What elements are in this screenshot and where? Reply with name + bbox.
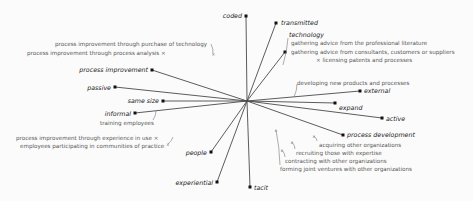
item-marker: x: [167, 142, 170, 147]
axis-endpoint-marker: [134, 112, 137, 115]
item-marker: x: [281, 148, 284, 153]
axis-endpoint-marker: [275, 22, 278, 25]
axis-endpoint-marker: [381, 117, 384, 120]
axis-endpoint-marker: [249, 186, 252, 189]
item-label: process improvement through process anal…: [27, 51, 166, 57]
item-label: training employees: [100, 121, 154, 127]
axis-label: same size: [128, 98, 159, 104]
axis-line: [247, 23, 276, 101]
axis-label: process development: [347, 132, 415, 138]
axis-line: [247, 91, 360, 101]
axis-line: [211, 101, 247, 152]
item-marker: x: [275, 128, 278, 133]
axis-line: [246, 16, 247, 101]
axis-endpoint-marker: [162, 100, 165, 103]
item-label: developing new products and processes: [297, 81, 409, 87]
item-label: employees participating in communities o…: [20, 144, 164, 150]
item-label: gathering advice from the professional l…: [291, 41, 427, 47]
item-marker: ×: [212, 52, 216, 57]
axis-endpoint-marker: [216, 181, 219, 184]
annotation-pointer: [153, 111, 156, 120]
biplot-canvas: ×xxxxx codedtransmittedtechnologyexterna…: [0, 0, 473, 201]
axis-endpoint-marker: [245, 15, 248, 18]
item-label: contracting with other organizations: [285, 159, 387, 165]
axis-endpoint-marker: [210, 151, 213, 154]
axis-endpoint-marker: [342, 134, 345, 137]
item-label: forming joint ventures with other organi…: [280, 167, 412, 173]
item-label: process improvement through purchase of …: [55, 42, 207, 48]
axis-line: [247, 101, 250, 187]
item-label: × licensing patents and processes: [316, 58, 412, 64]
axis-label: coded: [223, 13, 242, 19]
axis-line: [247, 101, 343, 135]
item-marker: x: [291, 140, 294, 145]
axis-label: expand: [339, 105, 362, 111]
axis-label: technology: [289, 32, 324, 38]
item-label: gathering advice from consultants, custo…: [291, 50, 455, 56]
axis-label: active: [386, 116, 405, 122]
annotation-pointer: [276, 130, 280, 165]
axis-line: [247, 52, 285, 101]
axis-endpoint-marker: [334, 102, 337, 105]
item-label: acquiring other organizations: [319, 143, 401, 149]
axis-endpoint-marker: [359, 90, 362, 93]
axis-label: passive: [87, 85, 111, 91]
axis-label: informal: [105, 111, 131, 117]
axis-label: people: [186, 150, 207, 156]
item-label: recruiting those with expertise: [296, 151, 382, 157]
axis-label: transmitted: [281, 20, 318, 26]
axis-label: tacit: [254, 185, 268, 191]
item-label: process improvement through experience i…: [16, 136, 158, 142]
axis-label: experiential: [175, 180, 213, 186]
axis-label: external: [364, 88, 390, 94]
axis-label: process improvement: [79, 67, 148, 73]
axis-endpoint-marker: [151, 69, 154, 72]
axis-endpoint-marker: [114, 86, 117, 89]
axis-line: [217, 101, 247, 182]
item-marker: x: [313, 134, 316, 139]
